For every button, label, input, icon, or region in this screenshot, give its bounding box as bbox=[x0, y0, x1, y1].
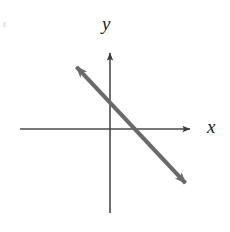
graph-canvas bbox=[0, 0, 230, 232]
axes-group bbox=[20, 53, 190, 213]
y-axis-label: y bbox=[102, 14, 110, 33]
plot-group bbox=[77, 67, 186, 183]
graph-figure: y x bbox=[0, 0, 230, 232]
x-axis-label: x bbox=[207, 117, 215, 136]
